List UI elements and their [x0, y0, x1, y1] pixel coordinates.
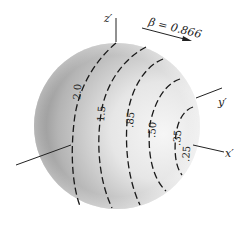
contour-label-1-5: 1.5	[95, 105, 107, 122]
x-axis-line	[193, 145, 224, 152]
contour-label-0-35: .35	[171, 129, 183, 146]
velocity-label: β = 0.866	[146, 15, 203, 41]
sphere-diagram: z′ 2.0 1.5 .85 .50 .35 .25 y′ x′ β = 0.8…	[0, 0, 242, 227]
y-axis-label: y′	[217, 96, 227, 109]
z-axis-label: z′	[103, 12, 113, 25]
contour-label-0-25: .25	[180, 145, 192, 162]
contour-label-2-0: 2.0	[71, 83, 83, 100]
contour-label-0-85: .85	[124, 111, 136, 128]
contour-label-0-50: .50	[146, 121, 158, 138]
x-axis-label: x′	[225, 147, 234, 160]
